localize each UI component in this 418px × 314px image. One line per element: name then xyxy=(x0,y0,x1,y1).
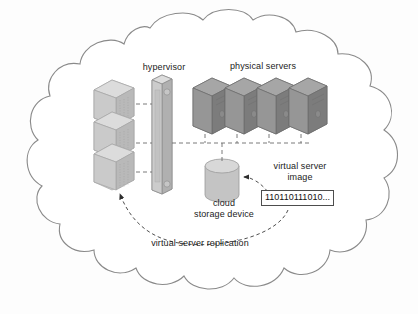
hypervisor-tower xyxy=(152,75,172,194)
virtual-server-image-box: 110110111010... xyxy=(261,190,334,206)
diagram-graphics xyxy=(0,0,418,314)
virtual-servers-stack xyxy=(94,80,134,190)
label-virtual-server-image-line-2: image xyxy=(258,172,342,183)
label-virtual-server-image-line-1: virtual server xyxy=(258,161,342,172)
physical-servers-group xyxy=(193,78,327,134)
cloud-storage-cylinder xyxy=(205,159,239,202)
label-hypervisor: hypervisor xyxy=(133,62,195,73)
physical-server-4 xyxy=(289,78,327,134)
label-physical-servers: physical servers xyxy=(213,61,313,72)
diagram-canvas: hypervisor physical servers cloud storag… xyxy=(0,0,418,314)
label-cloud-storage-device: cloud storage device xyxy=(178,198,270,220)
label-virtual-server-image: virtual server image xyxy=(258,161,342,183)
virtual-server-block-3 xyxy=(94,144,134,190)
label-cloud-storage-line-2: storage device xyxy=(178,209,270,220)
label-cloud-storage-line-1: cloud xyxy=(178,198,270,209)
label-virtual-server-replication: virtual server replication xyxy=(110,238,290,249)
